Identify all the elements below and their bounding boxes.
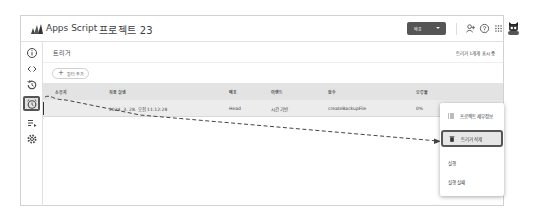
row-selection-marker [43,102,44,115]
add-person-icon[interactable] [465,23,476,34]
column-header-function[interactable]: 함수 [328,89,336,95]
executions-list-icon[interactable] [26,117,38,129]
trigger-count-text: 트리거 1개개 표시 중 [456,50,495,56]
menu-item-label: 실행 실패 [448,179,465,185]
top-header: Apps Script 프로젝트 23 배포 [21,16,503,42]
column-header-last-run[interactable]: 최종 실행 [109,89,126,95]
avatar[interactable] [507,21,520,35]
column-header-error-rate[interactable]: 오류율 [416,89,428,95]
triggers-panel: 트리거 트리거 1개개 표시 중 + 필터 추가 소유자 최종 실행 배포 이벤… [43,42,503,205]
menu-item-project-details[interactable]: 프로젝트 세부정보 [440,108,504,124]
plus-icon: + [58,70,64,77]
add-filter-label: 필터 추가 [67,71,84,77]
column-header-event[interactable]: 이벤트 [271,89,283,95]
row-context-menu: 프로젝트 세부정보 트리거 삭제 실행 실행 실패 [440,103,504,196]
list-icon [448,113,454,119]
cell-event: 시간 기반 [271,106,288,112]
menu-item-delete-trigger[interactable]: 트리거 삭제 [441,130,503,147]
help-icon[interactable] [479,23,490,34]
deploy-button[interactable]: 배포 [407,22,446,35]
code-icon[interactable] [26,63,38,75]
project-name[interactable]: 프로젝트 23 [99,22,153,37]
cell-function: createBackupFile [328,106,366,111]
app-name: Apps Script [46,23,97,33]
trash-icon [449,136,455,142]
table-row[interactable]: 2024. 3. 28. 오전 11:12:28 Head 시간 기반 crea… [43,100,503,117]
cell-last-run: 2024. 3. 28. 오전 11:12:28 [109,106,167,112]
table-header: 소유자 최종 실행 배포 이벤트 함수 오류율 [43,83,503,100]
chevron-down-icon [436,27,440,29]
gear-icon[interactable] [26,133,38,145]
menu-item-failed-executions[interactable]: 실행 실패 [440,174,504,190]
add-filter-button[interactable]: + 필터 추가 [52,68,89,79]
apps-grid-icon[interactable] [493,23,504,34]
menu-item-label: 프로젝트 세부정보 [460,113,493,119]
history-icon[interactable] [26,79,38,91]
info-icon[interactable] [26,47,38,59]
apps-script-window: Apps Script 프로젝트 23 배포 [20,15,504,206]
left-nav-rail [21,42,43,206]
apps-script-logo-icon [30,23,44,35]
column-header-deployment[interactable]: 배포 [229,89,237,95]
page-title: 트리거 [53,48,71,57]
menu-item-label: 실행 [448,160,456,166]
alarm-clock-icon[interactable] [26,98,38,110]
deploy-button-label: 배포 [414,26,422,32]
cell-error-rate: 0% [416,106,423,111]
header-divider [456,23,457,35]
divider [43,62,503,63]
column-header-owner[interactable]: 소유자 [55,89,67,95]
menu-item-label: 트리거 삭제 [461,136,482,142]
cell-deployment: Head [229,106,241,111]
menu-item-executions[interactable]: 실행 [440,155,504,171]
